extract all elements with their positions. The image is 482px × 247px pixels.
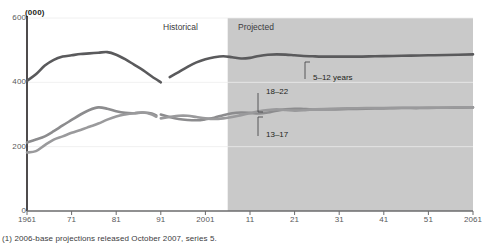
era-label-historical: Historical — [163, 22, 198, 32]
x-tick-label: 41 — [379, 215, 388, 224]
x-tick-label: 11 — [246, 215, 255, 224]
x-tick-label: 81 — [112, 215, 121, 224]
x-tick-label: 31 — [335, 215, 344, 224]
y-tick-label: 600 — [4, 13, 26, 22]
label-13-17: 13–17 — [266, 130, 288, 139]
era-label-projected: Projected — [238, 22, 274, 32]
x-tick-label: 51 — [424, 215, 433, 224]
projected-region-band — [228, 18, 473, 211]
x-tick-label: 91 — [156, 215, 165, 224]
series-line-5-12-years — [27, 52, 161, 82]
x-tick-label: 21 — [290, 215, 299, 224]
chart-footnote: (1) 2006-base projections released Octob… — [2, 234, 217, 243]
x-tick-label: 71 — [67, 215, 76, 224]
y-tick-label: 400 — [4, 77, 26, 86]
x-tick-label: 2001 — [196, 215, 214, 224]
y-tick-label: 200 — [4, 142, 26, 151]
x-tick-label: 1961 — [18, 215, 36, 224]
y-tick-label: 0 — [4, 206, 26, 215]
label-5-12-years: 5–12 years — [313, 73, 353, 82]
label-18-22: 18–22 — [266, 87, 288, 96]
y-axis-unit-label: (000) — [25, 8, 45, 17]
x-tick-label: 2061 — [464, 215, 482, 224]
